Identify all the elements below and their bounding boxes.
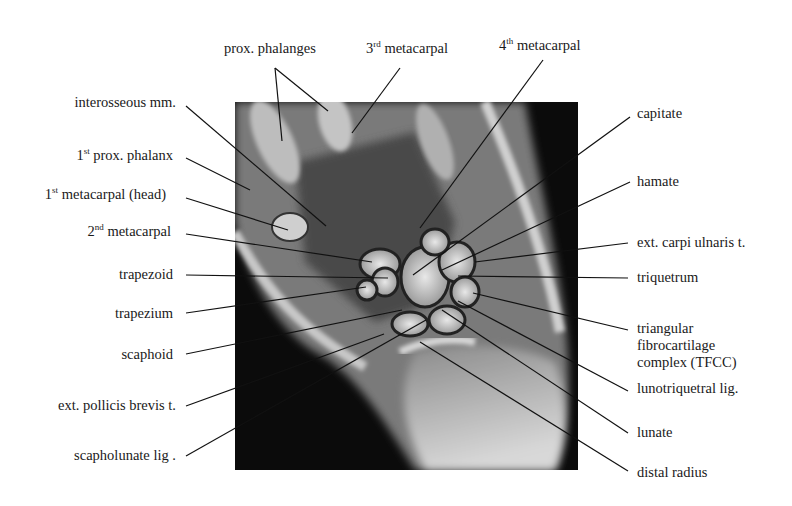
- label-text: triangular: [637, 320, 736, 337]
- label-lunate: lunate: [637, 424, 672, 441]
- label-sup: nd: [95, 222, 104, 232]
- label-1st-metacarpal-head: 1st metacarpal (head): [45, 186, 166, 203]
- label-scaphoid: scaphoid: [121, 346, 173, 363]
- label-text: prox. phalanx: [90, 147, 173, 163]
- label-num: 1: [76, 147, 83, 163]
- label-text: lunate: [637, 424, 672, 440]
- label-text: interosseous mm.: [75, 94, 177, 110]
- label-text: capitate: [637, 105, 682, 121]
- label-text: triquetrum: [637, 269, 698, 285]
- label-text: metacarpal: [513, 37, 580, 53]
- label-distal-radius: distal radius: [637, 464, 707, 481]
- label-text: scaphoid: [121, 346, 173, 362]
- label-text: lunotriquetral lig.: [637, 380, 738, 396]
- label-ext-carpi-ulnaris: ext. carpi ulnaris t.: [637, 234, 745, 251]
- label-text: trapezoid: [119, 266, 173, 282]
- label-text: trapezium: [115, 305, 173, 321]
- label-text: ext. carpi ulnaris t.: [637, 234, 745, 250]
- label-triquetrum: triquetrum: [637, 269, 698, 286]
- label-scapholunate-lig: scapholunate lig .: [74, 447, 176, 464]
- label-text: scapholunate lig .: [74, 447, 176, 463]
- mri-image: [235, 102, 578, 470]
- label-4th-metacarpal: 4th metacarpal: [499, 37, 580, 54]
- figure-canvas: prox. phalanges 3rd metacarpal 4th metac…: [0, 0, 792, 506]
- label-text: distal radius: [637, 464, 707, 480]
- label-text: prox. phalanges: [224, 40, 316, 56]
- label-sup: rd: [373, 39, 381, 49]
- label-num: 2: [88, 223, 95, 239]
- label-3rd-metacarpal: 3rd metacarpal: [366, 40, 448, 57]
- label-text: metacarpal: [104, 223, 171, 239]
- label-text: metacarpal (head): [58, 186, 166, 202]
- label-text: fibrocartilage: [637, 337, 736, 354]
- label-2nd-metacarpal: 2nd metacarpal: [88, 223, 171, 240]
- label-hamate: hamate: [637, 173, 679, 190]
- label-trapezium: trapezium: [115, 305, 173, 322]
- label-prox-phalanges: prox. phalanges: [224, 40, 316, 57]
- label-trapezoid: trapezoid: [119, 266, 173, 283]
- wrist-mri-illustration: [235, 102, 578, 470]
- label-text: complex (TFCC): [637, 354, 736, 371]
- label-tfcc: triangular fibrocartilage complex (TFCC): [637, 320, 736, 371]
- label-interosseous-mm: interosseous mm.: [75, 94, 177, 111]
- label-capitate: capitate: [637, 105, 682, 122]
- label-lunotriquetral-lig: lunotriquetral lig.: [637, 380, 738, 397]
- label-1st-prox-phalanx: 1st prox. phalanx: [76, 147, 173, 164]
- label-text: metacarpal: [381, 40, 448, 56]
- label-text: ext. pollicis brevis t.: [58, 397, 176, 413]
- label-ext-pollicis-brevis: ext. pollicis brevis t.: [58, 397, 176, 414]
- label-text: hamate: [637, 173, 679, 189]
